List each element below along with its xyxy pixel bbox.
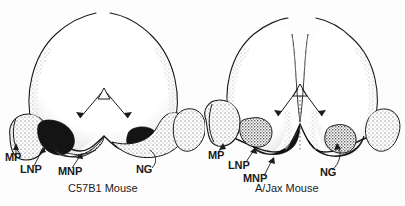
label-mnp-left: MNP: [58, 166, 82, 177]
figure-root: MP LNP MNP NG C57B1 Mouse: [0, 0, 405, 206]
panel-ajax: MP LNP MNP NG A/Jax Mouse: [200, 0, 405, 206]
label-mp-left: MP: [5, 152, 21, 163]
label-mp-right: MP: [208, 150, 224, 161]
label-ng-left: NG: [136, 164, 152, 175]
central-cleft-shading: [292, 34, 308, 124]
c57b1-drawing: [0, 0, 205, 206]
label-ng-right: NG: [320, 167, 336, 178]
caption-ajax: A/Jax Mouse: [255, 183, 319, 194]
panel-c57b1: MP LNP MNP NG C57B1 Mouse: [0, 0, 205, 206]
ajax-drawing: [200, 0, 405, 206]
caption-c57b1: C57B1 Mouse: [68, 183, 138, 194]
label-lnp-left: LNP: [20, 164, 42, 175]
label-lnp-right: LNP: [228, 160, 250, 171]
